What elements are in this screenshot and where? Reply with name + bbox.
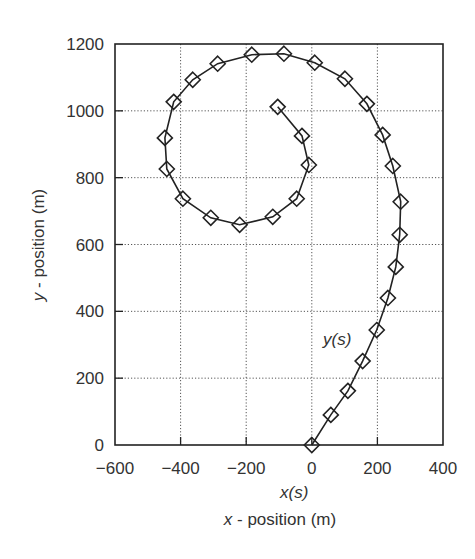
x-tick-label: 200 — [363, 459, 391, 478]
gridlines — [115, 44, 443, 445]
x-axis-label: x - position (m) — [223, 510, 336, 529]
x-tick-label: −400 — [161, 459, 199, 478]
x-tick-labels: −600−400−2000200400 — [96, 459, 457, 478]
x-tick-label: 0 — [307, 459, 316, 478]
x-axis-label-rest: - position (m) — [232, 510, 336, 529]
y-tick-label: 200 — [76, 369, 104, 388]
y-tick-label: 800 — [76, 169, 104, 188]
y-tick-label: 0 — [95, 436, 104, 455]
y-axis-label: y - position (m) — [29, 189, 48, 302]
ys-annotation: y(s) — [322, 330, 351, 349]
x-axis-label-var: x — [223, 510, 233, 529]
y-tick-label: 400 — [76, 302, 104, 321]
x-tick-label: −600 — [96, 459, 134, 478]
diamond-markers — [157, 46, 408, 452]
xs-annotation: x(s) — [279, 483, 308, 502]
y-tick-label: 1200 — [66, 35, 104, 54]
x-tick-label: 400 — [429, 459, 457, 478]
y-axis-label-rest: - position (m) — [29, 189, 48, 293]
spiral-trajectory-chart: −600−400−2000200400 02004006008001000120… — [0, 0, 475, 559]
x-tick-label: −200 — [227, 459, 265, 478]
y-tick-label: 600 — [76, 236, 104, 255]
y-tick-labels: 020040060080010001200 — [66, 35, 104, 455]
y-tick-label: 1000 — [66, 102, 104, 121]
trajectory-line — [165, 54, 401, 445]
plot-svg: −600−400−2000200400 02004006008001000120… — [0, 0, 475, 559]
